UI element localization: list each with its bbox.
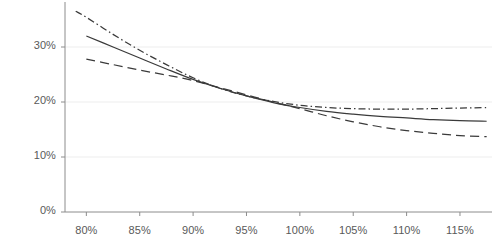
y-axis-tick-label: 10%	[12, 149, 56, 161]
x-axis-tick-label: 105%	[326, 224, 380, 236]
x-axis-tick-label: 90%	[166, 224, 220, 236]
x-axis-tick-label: 110%	[380, 224, 434, 236]
line-chart: 0%10%20%30%80%85%90%95%100%105%110%115%	[0, 0, 502, 252]
x-axis-tick-label: 100%	[273, 224, 327, 236]
x-axis-tick-label: 80%	[59, 224, 113, 236]
x-axis-tick-label: 95%	[219, 224, 273, 236]
x-axis-tick-label: 115%	[433, 224, 487, 236]
y-axis-tick-label: 20%	[12, 94, 56, 106]
chart-canvas	[0, 0, 502, 252]
y-axis-tick-label: 0%	[12, 204, 56, 216]
series-line-dashdot	[76, 11, 487, 109]
x-axis-tick-label: 85%	[113, 224, 167, 236]
series-line-dashed	[86, 59, 486, 137]
y-axis-tick-label: 30%	[12, 39, 56, 51]
